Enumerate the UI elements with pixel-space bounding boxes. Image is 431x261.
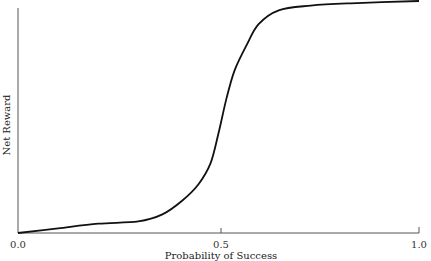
net-reward-curve [18, 1, 419, 233]
x-tick-label-0: 0.0 [10, 239, 26, 250]
x-axis-label: Probability of Success [165, 250, 277, 261]
chart: 0.0 0.5 1.0 Probability of Success Net R… [0, 0, 431, 261]
x-tick-label-05: 0.5 [213, 239, 229, 250]
x-tick-label-1: 1.0 [411, 239, 427, 250]
y-axis-label: Net Reward [1, 94, 12, 156]
